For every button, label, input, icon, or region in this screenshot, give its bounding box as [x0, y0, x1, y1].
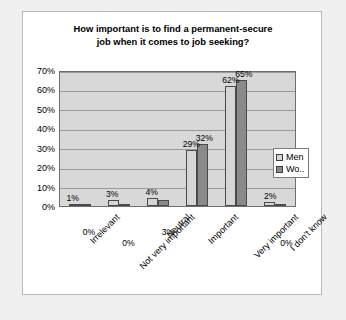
x-axis-tick-label: Important: [206, 212, 240, 246]
bar-group: [138, 72, 177, 206]
chart-screenshot: How important is to find a permanent-sec…: [0, 0, 346, 320]
y-axis-tick-label: 70%: [23, 66, 55, 76]
value-label-men: 4%: [146, 187, 158, 197]
plot-area: [59, 71, 296, 207]
y-axis-tick-label: 20%: [23, 163, 55, 173]
legend-swatch-women-icon: [276, 166, 283, 173]
bar-group: [256, 72, 295, 206]
y-axis-tick-label: 40%: [23, 124, 55, 134]
bar-women: [275, 204, 286, 206]
value-label-women: 32%: [196, 133, 213, 143]
y-axis-tick-label: 60%: [23, 85, 55, 95]
value-label-women: 0%: [280, 238, 292, 248]
value-label-women: 65%: [235, 69, 252, 79]
bar-women: [236, 80, 247, 206]
value-label-women: 3%: [162, 227, 174, 237]
legend-label-men: Men: [286, 152, 304, 162]
y-axis-tick-label: 0%: [23, 202, 55, 212]
chart-legend: Men Wo..: [273, 148, 309, 178]
bar-groups: [60, 72, 295, 206]
y-axis-tick-label: 30%: [23, 144, 55, 154]
bar-group: [99, 72, 138, 206]
chart-title: How important is to find a permanent-sec…: [31, 22, 315, 48]
bar-group: [60, 72, 99, 206]
bar-women: [80, 204, 91, 206]
value-label-men: 3%: [106, 189, 118, 199]
bar-men: [108, 200, 119, 206]
bar-men: [147, 198, 158, 206]
y-axis-tick-label: 10%: [23, 183, 55, 193]
bar-men: [225, 86, 236, 206]
x-axis-tick-label: Very important: [252, 212, 300, 260]
bar-men: [186, 150, 197, 206]
legend-swatch-men-icon: [276, 154, 283, 161]
bar-women: [158, 200, 169, 206]
bar-group: [217, 72, 256, 206]
legend-item-women: Wo..: [276, 163, 304, 175]
legend-item-men: Men: [276, 151, 304, 163]
chart-title-line-1: How important is to find a permanent-sec…: [31, 22, 315, 35]
value-label-men: 1%: [67, 193, 79, 203]
bar-men: [69, 204, 80, 206]
bar-men: [264, 202, 275, 206]
value-label-women: 0%: [122, 238, 134, 248]
value-label-men: 2%: [264, 191, 276, 201]
y-axis-tick-label: 50%: [23, 105, 55, 115]
bar-women: [119, 204, 130, 206]
legend-label-women: Wo..: [286, 164, 304, 174]
value-label-women: 0%: [83, 227, 95, 237]
chart-frame: How important is to find a permanent-sec…: [22, 11, 322, 295]
chart-title-line-2: job when it comes to job seeking?: [31, 35, 315, 48]
bar-women: [197, 144, 208, 206]
